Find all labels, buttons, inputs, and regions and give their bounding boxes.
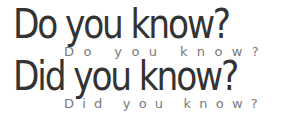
headline-do-you-know: Do you know?: [13, 4, 229, 44]
caption-did-you-know: Did you know?: [64, 97, 266, 110]
headline-did-you-know: Did you know?: [13, 56, 237, 96]
